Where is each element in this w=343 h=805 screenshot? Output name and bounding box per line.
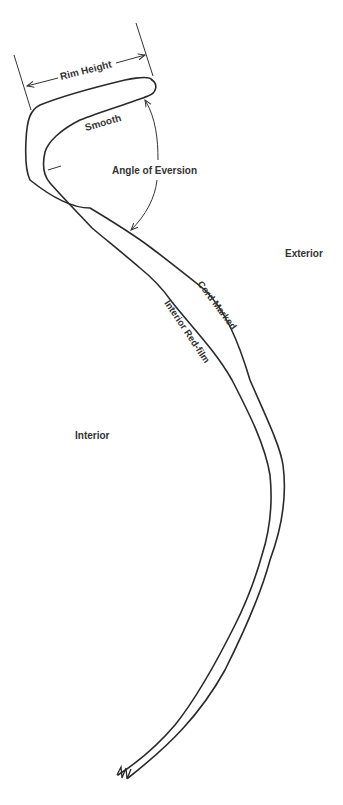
rim-profile-diagram: Rim Height Smooth Angle of Eversion Exte… [0,0,343,805]
rim-height-arrow-left [27,78,58,86]
vessel-interior-edge [43,80,271,775]
angle-of-eversion-arc-upper [145,100,158,160]
smooth-label: Smooth [84,112,123,133]
angle-of-eversion-arc-lower [131,180,157,230]
rim-height-arrow-right [116,55,145,63]
rim-height-label: Rim Height [59,58,114,82]
vessel-exterior-edge [26,77,285,778]
cord-marked-label: Cord Marked [195,279,239,332]
angle-of-eversion-label: Angle of Eversion [112,165,197,176]
interior-red-film-label: Interior Red-film [162,298,212,365]
rim-height-extension-left [14,55,31,110]
interior-tick-mark [48,166,61,170]
rim-height-extension-right [136,23,153,76]
exterior-label: Exterior [285,248,323,259]
interior-label: Interior [75,430,110,441]
